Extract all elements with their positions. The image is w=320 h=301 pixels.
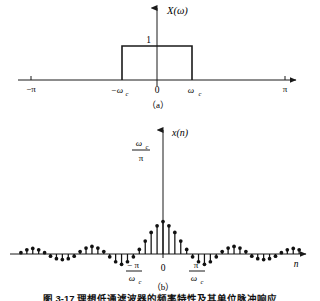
panel-b-xtick-pos-denominator-subscript: c: [201, 278, 204, 285]
panel-b-yaxis-label: x(n): [171, 127, 189, 139]
stem-marker: [167, 224, 171, 228]
stem-marker: [37, 248, 41, 252]
stem-marker: [285, 248, 289, 252]
stem-marker: [220, 250, 224, 254]
panel-b-caption: （b）: [152, 282, 175, 292]
panel-a-caption: （a）: [147, 100, 169, 110]
stem-marker: [209, 260, 213, 264]
stem-marker: [114, 260, 118, 264]
panel-b-xaxis-label: n: [294, 259, 299, 269]
stem-marker: [72, 254, 76, 258]
stem-marker: [55, 257, 59, 261]
stem-marker: [61, 258, 65, 262]
stem-marker: [78, 250, 82, 254]
panel-b-xtick-pos-numerator: π: [194, 260, 199, 270]
stem-marker: [185, 248, 189, 252]
stem-marker: [102, 250, 106, 254]
panel-a-amplitude-label: 1: [146, 35, 151, 45]
stem-marker: [250, 254, 254, 258]
panel-b-xtick-origin: 0: [161, 263, 166, 273]
stem-marker: [297, 248, 301, 252]
panel-a-xtick-origin: 0: [155, 85, 160, 95]
stem-marker: [96, 246, 100, 250]
stem-marker: [137, 248, 141, 252]
stem-marker: [173, 231, 177, 235]
stem-marker: [84, 246, 88, 250]
stem-marker: [268, 257, 272, 261]
stem-marker: [66, 257, 70, 261]
stem-marker: [232, 245, 236, 249]
stem-marker: [291, 247, 295, 251]
stem-marker: [132, 255, 136, 259]
stem-marker: [155, 224, 159, 228]
panel-a-xtick-pos-cutoff-subscript: c: [199, 90, 202, 97]
stem-marker: [226, 246, 230, 250]
stem-marker: [214, 255, 218, 259]
panel-a-xtick-neg-pi: −π: [26, 84, 36, 94]
stem-marker: [108, 255, 112, 259]
panel-a-xtick-neg-cutoff: −ω: [111, 85, 123, 95]
panel-b-peak-numerator: ω: [136, 138, 142, 148]
stem-marker: [19, 251, 23, 255]
panel-a-xtick-neg-cutoff-subscript: c: [126, 90, 129, 97]
stem-marker: [256, 257, 260, 261]
stem-marker: [179, 239, 183, 243]
stem-marker: [280, 251, 284, 255]
stem-marker: [238, 246, 242, 250]
panel-b-xtick-neg-denominator-subscript: c: [139, 278, 142, 285]
stem-marker: [31, 247, 35, 251]
stem-marker: [161, 220, 165, 224]
stem-marker: [203, 262, 207, 266]
panel-a-xtick-pos-pi: π: [283, 84, 288, 94]
stem-marker: [191, 255, 195, 259]
stem-marker: [274, 254, 278, 258]
panel-b-xtick-neg-denominator: ω: [129, 273, 135, 283]
stem-marker: [262, 258, 266, 262]
panel-a-xtick-pos-cutoff: ω: [188, 85, 194, 95]
panel-a-yaxis-label: X(ω): [166, 5, 188, 17]
panel-b-peak-denominator: π: [139, 153, 144, 163]
stem-marker: [143, 239, 147, 243]
stem-marker: [149, 231, 153, 235]
panel-b-xtick-pos-denominator: ω: [191, 273, 197, 283]
panel-a-group: X(ω) 1 −π −ω c 0 ω c π （a）: [18, 5, 296, 110]
stem-marker: [49, 254, 53, 258]
panel-b-xtick-neg-numerator: − π: [127, 260, 139, 270]
stem-marker: [244, 250, 248, 254]
stem-plot-series: [19, 220, 301, 266]
stem-marker: [90, 245, 94, 249]
panel-b-group: x(n) ω c π − π ω c 0 π ω c n （b）: [10, 127, 306, 292]
panel-b-peak-numerator-subscript: c: [146, 143, 149, 150]
stem-marker: [43, 251, 47, 255]
figure-caption: 图 3-17 理想低通滤波器的频率特性及其单位脉冲响应: [0, 293, 320, 301]
stem-marker: [25, 248, 29, 252]
stem-marker: [120, 262, 124, 266]
